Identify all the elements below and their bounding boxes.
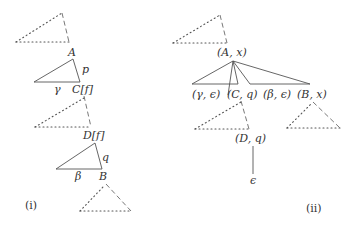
solid-triangle-A [34, 59, 80, 82]
label-p: p [82, 63, 89, 76]
context-triangle-Cq [195, 101, 249, 129]
label-root-A-x: (A, x) [217, 46, 247, 59]
label-beta: β [74, 170, 81, 183]
diagram-ii: (A, x) (γ, ϵ) (C, q) (β, ϵ) (B, x) (D, q… [173, 15, 340, 215]
context-triangle-top [16, 13, 69, 42]
context-triangle-bottom [80, 184, 131, 211]
solid-triangle-D [56, 143, 102, 169]
label-D-q: (D, q) [235, 132, 266, 145]
label-beta-eps: (β, ϵ) [263, 88, 291, 101]
context-triangle-middle [35, 96, 91, 127]
context-triangle-Bx [287, 102, 340, 128]
label-B-x: (B, x) [297, 88, 327, 101]
label-C-f: C[f] [72, 83, 94, 96]
label-D-f: D[f] [82, 129, 105, 142]
label-eps: ϵ [250, 174, 256, 187]
label-A: A [67, 46, 76, 59]
caption-i: (i) [25, 199, 37, 212]
diagram-canvas: A p γ C[f] D[f] q β B (i) [0, 0, 349, 225]
label-gamma-eps: (γ, ϵ) [192, 88, 220, 101]
diagram-i: A p γ C[f] D[f] q β B (i) [16, 13, 131, 212]
caption-ii: (ii) [306, 202, 322, 215]
label-q: q [102, 151, 109, 164]
label-C-q: (C, q) [227, 88, 258, 101]
context-triangle-top-ii [173, 15, 227, 43]
label-gamma: γ [54, 83, 61, 96]
label-B: B [98, 170, 107, 183]
